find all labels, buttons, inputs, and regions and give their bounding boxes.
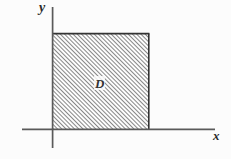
- region-label-d: D: [94, 76, 105, 90]
- y-axis-label: y: [39, 1, 45, 15]
- figure-graphics: [0, 0, 231, 159]
- figure-canvas: y x D: [0, 0, 231, 159]
- x-axis-label: x: [213, 129, 220, 142]
